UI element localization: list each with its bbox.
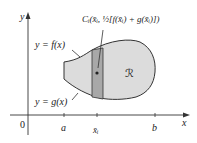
centroid-label: Cᵢ(x̄ᵢ, ½[f(x̄ᵢ) + g(x̄ᵢ)]) (82, 14, 160, 24)
tick-label-b: b (152, 122, 157, 133)
centroid-point (95, 71, 98, 74)
tick-label-a: a (61, 122, 66, 133)
g-leader (72, 93, 78, 100)
region-r (64, 40, 155, 99)
region-label: ℛ (125, 67, 134, 79)
x-axis-label: x (181, 117, 187, 128)
f-leader (72, 50, 80, 57)
centroid-diagram: y x 0 a x̄ᵢ b y = f(x) y = g(x) ℛ Cᵢ(x̄ᵢ… (0, 0, 197, 143)
upper-curve-label: y = f(x) (34, 39, 66, 51)
lower-curve-label: y = g(x) (34, 96, 68, 108)
y-axis-arrow-icon (26, 12, 31, 19)
origin-label: 0 (20, 119, 25, 130)
y-axis-label: y (19, 11, 25, 22)
tick-label-xi: x̄ᵢ (92, 125, 99, 135)
